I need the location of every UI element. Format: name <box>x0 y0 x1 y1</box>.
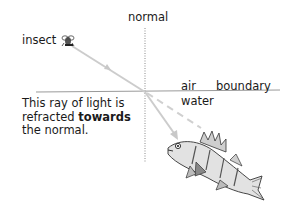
caption-line-1: This ray of light is <box>22 97 131 111</box>
air-label: air <box>181 80 196 93</box>
normal-label: normal <box>128 11 168 24</box>
boundary-label: boundary <box>216 80 271 93</box>
insect-label: insect <box>22 34 56 47</box>
insect-icon <box>62 36 74 46</box>
caption-text: This ray of light is refracted towards t… <box>22 97 131 138</box>
refracted-ray <box>145 92 176 136</box>
caption-line-3: the normal. <box>22 124 131 138</box>
fish-icon <box>168 131 264 200</box>
caption-emphasis: towards <box>78 110 131 124</box>
caption-line-2: refracted towards <box>22 111 131 125</box>
water-label: water <box>181 95 214 108</box>
caption-line-2-prefix: refracted <box>22 110 78 124</box>
